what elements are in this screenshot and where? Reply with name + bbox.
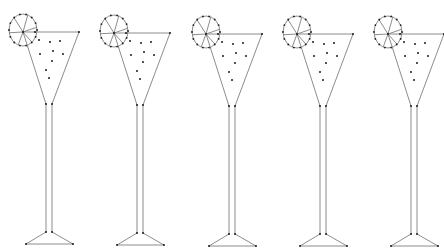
vertex-point (390, 245, 392, 247)
bubble-dot (136, 70, 138, 72)
vertex-point (410, 233, 412, 235)
vertex-point (72, 243, 74, 245)
vertex-point (296, 33, 298, 35)
vertex-point (51, 103, 53, 105)
cocktail-glass (8, 14, 80, 245)
vertex-point (325, 105, 327, 107)
glass-bowl-right (417, 34, 444, 106)
glass-bowl-left (23, 32, 46, 104)
bubble-dot (336, 55, 338, 57)
glass-bowl-left (297, 34, 320, 106)
lemon-slice-icon (373, 16, 403, 49)
bubble-dot (234, 62, 236, 64)
vertex-point (234, 105, 236, 107)
bubble-dot (326, 52, 328, 54)
vertex-point (346, 245, 348, 247)
lemon-slice-icon (282, 16, 312, 49)
glass-bowl-left (114, 33, 137, 105)
lemon-slice-icon (191, 16, 221, 49)
vertex-point (78, 31, 80, 33)
bubble-dot (319, 71, 321, 73)
bubble-dot (150, 41, 152, 43)
glass-base-right (143, 233, 164, 245)
vertex-point (125, 32, 127, 34)
glass-base-right (417, 234, 438, 246)
bubble-dot (38, 39, 40, 41)
bubble-dot (404, 55, 406, 57)
glass-bowl-right (52, 32, 79, 104)
vertex-point (325, 233, 327, 235)
vertex-point (234, 233, 236, 235)
vertex-point (399, 33, 401, 35)
bubble-dot (333, 42, 335, 44)
bubble-dot (416, 62, 418, 64)
bubble-dot (39, 53, 41, 55)
cocktail-glass (282, 16, 354, 247)
bubble-dot (232, 43, 234, 45)
bubble-dot (129, 40, 131, 42)
bubble-dot (242, 42, 244, 44)
bubble-dot (245, 55, 247, 57)
vertex-point (387, 33, 389, 35)
bubble-dot (139, 78, 141, 80)
glass-base-left (26, 232, 46, 244)
glass-base-right (326, 234, 347, 246)
vertex-point (299, 245, 301, 247)
bubble-dot (153, 54, 155, 56)
glass-bowl-left (388, 34, 411, 106)
vertex-point (116, 244, 118, 246)
cocktail-glasses-drawing (0, 0, 444, 250)
vertex-point (228, 105, 230, 107)
bubble-dot (130, 54, 132, 56)
glass-base-right (52, 232, 73, 244)
glass-bowl-right (143, 33, 170, 105)
vertex-point (22, 31, 24, 33)
cocktail-glass (99, 15, 171, 246)
glass-base-right (235, 234, 256, 246)
bubble-dot (51, 60, 53, 62)
bubble-dot (142, 61, 144, 63)
vertex-point (169, 32, 171, 34)
bubble-dot (403, 41, 405, 43)
vertex-point (308, 33, 310, 35)
vertex-point (45, 231, 47, 233)
bubble-dot (424, 42, 426, 44)
bubble-dot (143, 51, 145, 53)
vertex-point (142, 232, 144, 234)
vertex-point (217, 33, 219, 35)
vertex-point (25, 243, 27, 245)
bubble-dot (62, 53, 64, 55)
bubble-dot (410, 71, 412, 73)
bubble-dot (414, 43, 416, 45)
vertex-point (255, 245, 257, 247)
vertex-point (136, 232, 138, 234)
bubble-dot (413, 79, 415, 81)
vertex-point (163, 244, 165, 246)
vertex-point (416, 105, 418, 107)
vertex-point (142, 104, 144, 106)
vertex-point (228, 233, 230, 235)
vertex-point (34, 31, 36, 33)
glass-base-left (300, 234, 320, 246)
bubble-dot (427, 55, 429, 57)
vertex-point (352, 33, 354, 35)
bubble-dot (45, 69, 47, 71)
vertex-point (136, 104, 138, 106)
bubble-dot (235, 52, 237, 54)
lemon-slice-icon (8, 14, 38, 47)
bubble-dot (59, 40, 61, 42)
bubble-dot (52, 50, 54, 52)
glass-base-left (209, 234, 229, 246)
glass-bowl-right (235, 34, 262, 106)
glass-bowl-right (326, 34, 353, 106)
bubble-dot (325, 62, 327, 64)
bubble-dot (312, 41, 314, 43)
vertex-point (51, 231, 53, 233)
vertex-point (113, 32, 115, 34)
vertex-point (319, 233, 321, 235)
bubble-dot (313, 55, 315, 57)
bubble-dot (48, 77, 50, 79)
bubble-dot (322, 79, 324, 81)
vertex-point (45, 103, 47, 105)
bubble-dot (417, 52, 419, 54)
